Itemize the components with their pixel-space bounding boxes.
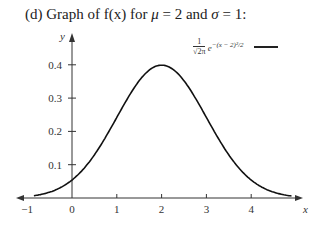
- normal-curve: [34, 65, 292, 196]
- x-tick-label: 2: [159, 203, 165, 215]
- y-axis-label: y: [59, 30, 65, 42]
- x-tick-label: 1: [114, 203, 120, 215]
- y-tick-label: 0.4: [48, 59, 62, 71]
- x-tick-label: −1: [21, 203, 33, 215]
- x-tick-label: 0: [69, 203, 75, 215]
- y-axis-arrow-icon: [69, 33, 75, 42]
- y-tick-label: 0.1: [48, 159, 62, 171]
- y-tick-label: 0.3: [48, 92, 62, 104]
- x-axis-label: x: [302, 203, 308, 215]
- chart-plot: yx−1012340.10.20.30.4: [0, 0, 318, 229]
- y-tick-label: 0.2: [48, 125, 62, 137]
- x-tick-label: 4: [248, 203, 254, 215]
- x-axis-left-arrow-icon: [16, 195, 24, 201]
- x-tick-label: 3: [204, 203, 210, 215]
- x-axis-right-arrow-icon: [295, 195, 303, 201]
